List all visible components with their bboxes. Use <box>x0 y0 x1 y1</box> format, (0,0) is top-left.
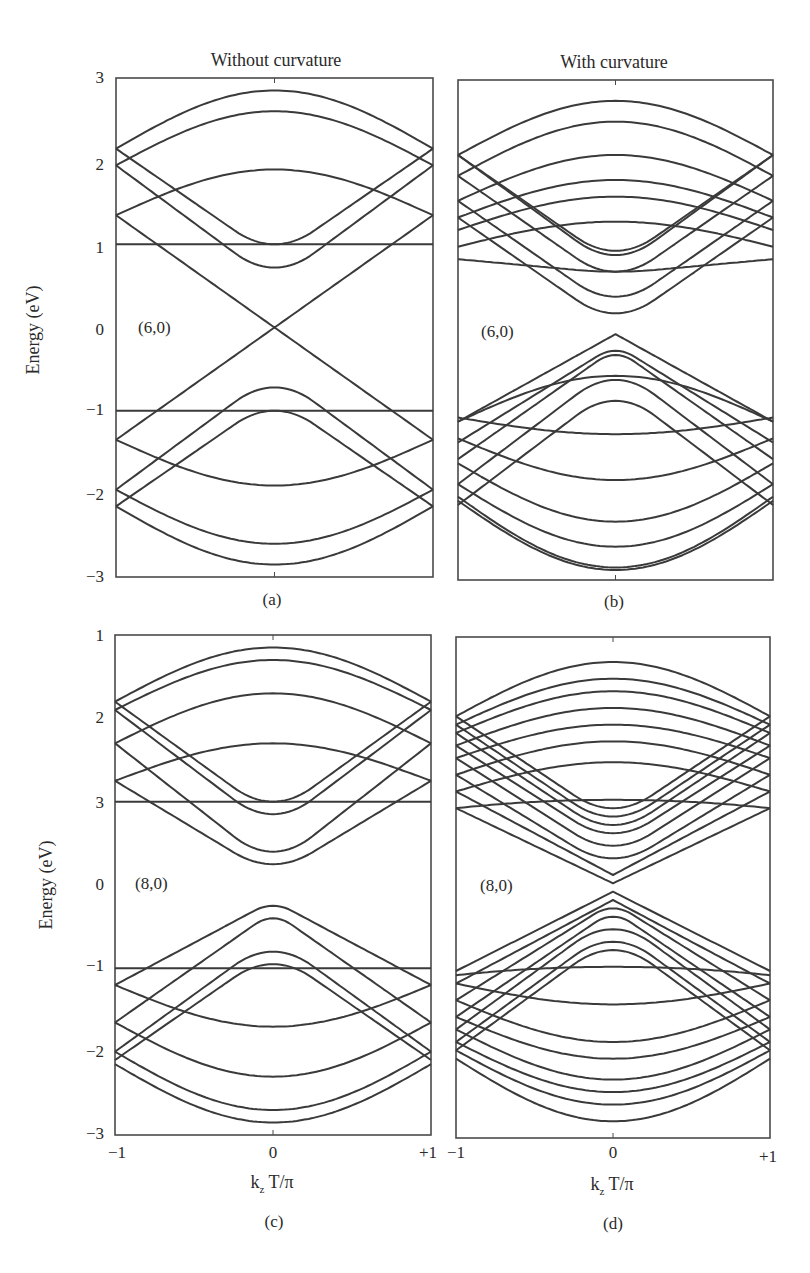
energy-band-curve <box>458 355 773 459</box>
plot-frame <box>456 637 770 1138</box>
energy-band-curve <box>115 1064 431 1122</box>
energy-band-curve <box>115 743 431 851</box>
energy-band-curve <box>458 155 773 201</box>
energy-band-curve <box>456 691 770 733</box>
energy-band-curve <box>456 1042 770 1092</box>
energy-band-curve <box>115 964 431 1060</box>
energy-band-curve <box>116 490 433 544</box>
energy-band-curve <box>116 328 433 440</box>
energy-band-curve <box>458 155 773 255</box>
energy-band-curve <box>456 1030 770 1080</box>
energy-band-curve <box>456 984 770 1005</box>
energy-band-curve <box>115 1023 431 1077</box>
band-structure-plots <box>0 0 810 1273</box>
energy-band-curve <box>116 149 433 245</box>
energy-band-curve <box>456 929 770 1029</box>
energy-band-curve <box>458 259 773 272</box>
energy-band-curve <box>115 952 431 1052</box>
energy-band-curve <box>115 985 431 1027</box>
energy-band-curve <box>115 743 431 781</box>
energy-band-curve <box>456 967 770 975</box>
plot-panel-a <box>116 78 433 577</box>
energy-band-curve <box>116 170 433 216</box>
energy-band-curve <box>458 180 773 218</box>
energy-band-curve <box>456 679 770 725</box>
energy-band-curve <box>458 501 773 570</box>
energy-band-curve <box>458 218 773 314</box>
energy-band-curve <box>458 438 773 480</box>
plot-panel-b <box>458 80 773 580</box>
energy-band-curve <box>115 702 431 802</box>
plot-panel-c <box>115 635 431 1135</box>
energy-band-curve <box>116 111 433 165</box>
energy-band-curve <box>456 1059 770 1122</box>
energy-band-curve <box>116 215 433 327</box>
energy-band-curve <box>115 710 431 814</box>
energy-band-curve <box>458 351 773 443</box>
energy-band-curve <box>458 101 773 155</box>
energy-band-curve <box>116 411 433 507</box>
energy-band-curve <box>458 155 773 251</box>
plot-panel-d <box>456 637 770 1138</box>
energy-band-curve <box>116 440 433 486</box>
energy-band-curve <box>115 918 431 1022</box>
energy-band-curve <box>458 334 773 422</box>
energy-band-curve <box>115 1052 431 1110</box>
energy-band-curve <box>456 741 770 774</box>
energy-band-curve <box>458 484 773 547</box>
energy-band-curve <box>458 197 773 230</box>
energy-band-curve <box>458 418 773 435</box>
energy-band-curve <box>456 942 770 1042</box>
energy-band-curve <box>456 908 770 1000</box>
energy-band-curve <box>115 660 431 710</box>
plot-frame <box>115 635 431 1135</box>
energy-band-curve <box>458 376 773 422</box>
